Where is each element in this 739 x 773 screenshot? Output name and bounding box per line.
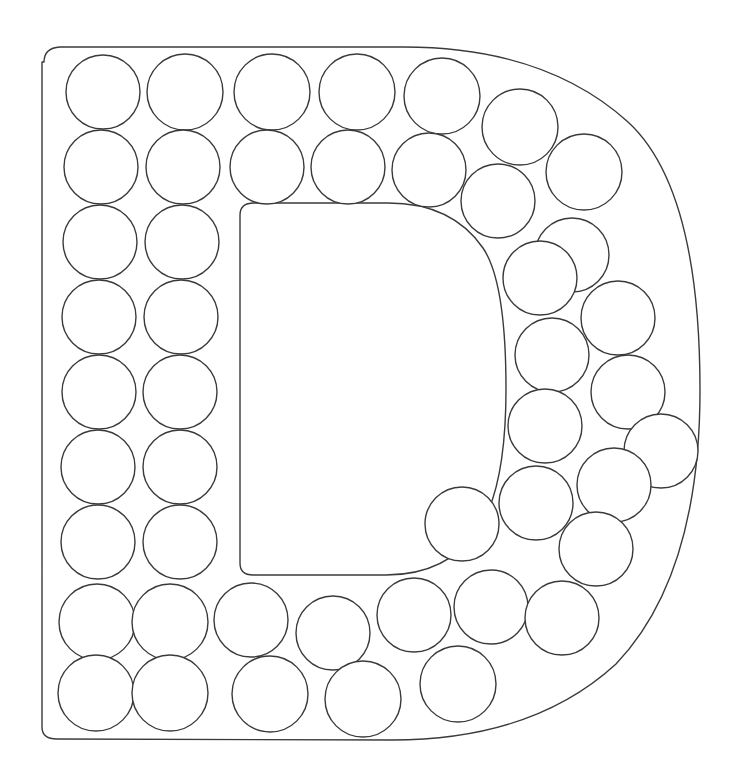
dot-circle[interactable] xyxy=(482,89,558,165)
dot-circle[interactable] xyxy=(146,130,220,204)
dot-circle[interactable] xyxy=(234,54,310,130)
dot-circle[interactable] xyxy=(143,430,217,504)
dot-circle[interactable] xyxy=(319,54,395,130)
dot-circle[interactable] xyxy=(61,430,135,504)
dot-circle[interactable] xyxy=(296,596,370,670)
dot-circle[interactable] xyxy=(59,584,135,660)
dot-circle[interactable] xyxy=(546,134,622,210)
dot-circle[interactable] xyxy=(559,512,633,586)
dot-circle[interactable] xyxy=(311,130,385,204)
dot-circle[interactable] xyxy=(62,280,136,354)
dot-circle[interactable] xyxy=(425,487,499,561)
dot-circle[interactable] xyxy=(499,466,573,540)
dot-circle[interactable] xyxy=(420,646,496,722)
dot-circle[interactable] xyxy=(461,164,535,238)
dot-circle[interactable] xyxy=(61,505,135,579)
dot-circle[interactable] xyxy=(581,281,655,355)
dot-circle[interactable] xyxy=(143,505,217,579)
dot-circle[interactable] xyxy=(145,205,219,279)
dot-circle[interactable] xyxy=(144,280,218,354)
dot-circle[interactable] xyxy=(132,584,208,660)
dot-circle[interactable] xyxy=(454,570,528,644)
dot-circle[interactable] xyxy=(132,655,208,731)
dot-circle[interactable] xyxy=(503,241,577,315)
worksheet-canvas: Letter D Dot Marker Worksheet xyxy=(0,0,739,773)
dot-circle[interactable] xyxy=(64,130,138,204)
dot-circle[interactable] xyxy=(392,133,466,207)
dot-circle[interactable] xyxy=(508,389,582,463)
dot-circle[interactable] xyxy=(58,655,134,731)
letter-d-dot-worksheet xyxy=(0,0,739,773)
dot-circle[interactable] xyxy=(62,355,136,429)
dot-circle[interactable] xyxy=(525,581,599,655)
dot-circle[interactable] xyxy=(377,578,451,652)
dot-circle[interactable] xyxy=(404,58,480,134)
dot-circle[interactable] xyxy=(232,656,308,732)
dot-circle[interactable] xyxy=(63,205,137,279)
dot-circle[interactable] xyxy=(325,661,401,737)
dot-circle[interactable] xyxy=(515,318,589,392)
dot-circle[interactable] xyxy=(143,355,217,429)
dot-circle[interactable] xyxy=(147,54,223,130)
dot-circle[interactable] xyxy=(214,583,288,657)
dot-circle[interactable] xyxy=(66,55,140,129)
dot-circle[interactable] xyxy=(577,448,651,522)
dot-circle[interactable] xyxy=(230,130,304,204)
